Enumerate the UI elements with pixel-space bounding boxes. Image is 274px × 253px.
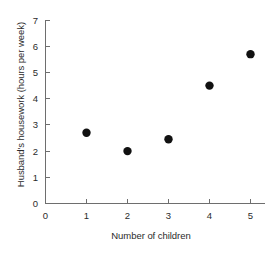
y-tick-label: 5 — [33, 67, 38, 78]
x-axis-title: Number of children — [45, 230, 257, 241]
x-axis-tick-marks — [87, 199, 251, 204]
y-tick-label: 2 — [33, 146, 38, 157]
data-point: 1, 2.7 — [82, 129, 90, 137]
scatter-chart: Husband's housework (hours per week) 012… — [0, 0, 274, 253]
y-tick-label: 4 — [33, 93, 38, 104]
y-tick-label: 1 — [33, 172, 38, 183]
data-point-series: 1, 2.72, 23, 2.454, 4.55, 5.7 — [82, 50, 254, 155]
y-axis-tick-labels: 01234567 — [33, 15, 38, 209]
data-point: 4, 4.5 — [205, 81, 213, 89]
x-tick-label: 4 — [207, 210, 212, 221]
data-point: 2, 2 — [123, 147, 131, 155]
x-tick-label: 0 — [43, 210, 48, 221]
y-tick-label: 7 — [33, 15, 38, 26]
y-tick-label: 3 — [33, 119, 38, 130]
plot-area: 01234567 012345 1, 2.72, 23, 2.454, 4.55… — [0, 0, 274, 253]
x-tick-label: 5 — [248, 210, 253, 221]
y-tick-label: 6 — [33, 41, 38, 52]
x-tick-label: 2 — [125, 210, 130, 221]
data-point: 3, 2.45 — [164, 135, 172, 143]
y-tick-label: 0 — [33, 198, 38, 209]
x-tick-label: 3 — [166, 210, 171, 221]
x-axis-tick-labels: 012345 — [43, 210, 253, 221]
y-axis-tick-marks — [46, 20, 51, 177]
data-point: 5, 5.7 — [246, 50, 254, 58]
x-tick-label: 1 — [84, 210, 89, 221]
